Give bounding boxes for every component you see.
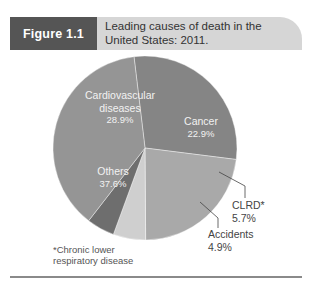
label-accidents: Accidents 4.9%: [208, 228, 254, 253]
bottom-rule: [10, 276, 302, 278]
slice-cancer: [145, 148, 236, 240]
pie-chart: [0, 0, 317, 281]
label-cancer: Cancer 22.9%: [176, 115, 226, 140]
label-clrd: CLRD* 5.7%: [232, 199, 265, 224]
label-cardiovascular: Cardiovascular diseases 28.9%: [70, 89, 170, 127]
pie-slices: [53, 56, 237, 240]
label-others: Others 37.6%: [88, 165, 138, 190]
footnote: *Chronic lower respiratory disease: [53, 244, 133, 266]
